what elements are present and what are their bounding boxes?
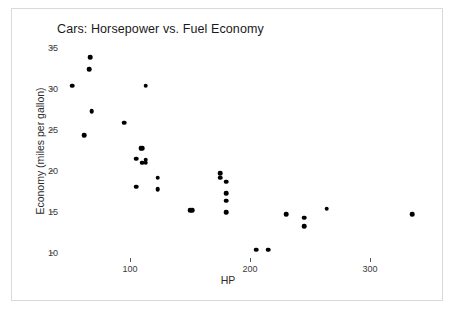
y-tick-mark-15 [50, 212, 54, 213]
y-tick-mark-10 [50, 253, 54, 254]
x-tick-mark-200 [250, 258, 251, 262]
y-tick-mark-20 [50, 171, 54, 172]
x-axis-ticks: 100200300 [0, 258, 456, 282]
y-tick-mark-35 [50, 48, 54, 49]
x-tick-label-100: 100 [110, 264, 150, 274]
y-tick-mark-30 [50, 89, 54, 90]
page-title: Cars: Horsepower vs. Fuel Economy [57, 22, 264, 36]
x-tick-label-300: 300 [350, 264, 390, 274]
scatter-plot-figure: Cars: Horsepower vs. Fuel Economy Econom… [0, 0, 456, 316]
x-tick-mark-100 [130, 258, 131, 262]
x-tick-label-200: 200 [230, 264, 270, 274]
x-tick-mark-300 [370, 258, 371, 262]
y-tick-mark-25 [50, 130, 54, 131]
